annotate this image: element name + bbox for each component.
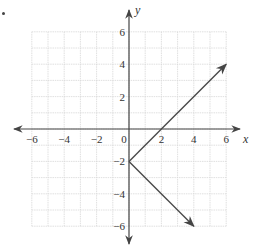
y-tick-label: −4: [113, 188, 125, 200]
y-tick-label: −2: [113, 155, 125, 167]
x-tick-label: −6: [26, 133, 38, 145]
x-tick-label: 2: [159, 133, 165, 145]
coordinate-plane: −6−4−20246642−2−4−6 x y: [0, 0, 259, 250]
y-tick-label: 6: [120, 26, 126, 38]
x-tick-label: −2: [91, 133, 103, 145]
x-tick-label: 4: [191, 133, 197, 145]
y-axis-label: y: [134, 3, 141, 17]
x-axis-label: x: [242, 132, 249, 146]
x-tick-label: 6: [223, 133, 229, 145]
y-tick-label: −6: [113, 220, 125, 232]
x-tick-label: 0: [121, 133, 127, 145]
y-tick-label: 2: [120, 91, 126, 103]
x-tick-label: −4: [58, 133, 70, 145]
y-tick-label: 4: [120, 58, 126, 70]
